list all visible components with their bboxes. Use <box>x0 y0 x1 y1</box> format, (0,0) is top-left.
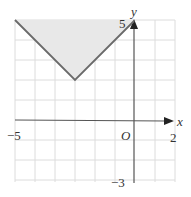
x-min-label: −5 <box>7 128 21 143</box>
origin-label: O <box>121 128 131 143</box>
shaded-region <box>15 20 135 80</box>
y-max-label: 5 <box>119 16 126 31</box>
graph: y 5 x −5 O 2 −3 <box>0 0 191 197</box>
y-min-label: −3 <box>111 175 125 190</box>
x-axis <box>15 120 166 121</box>
x-axis-arrow-icon <box>164 117 174 125</box>
y-axis-label: y <box>129 4 137 19</box>
x-max-label: 2 <box>170 130 177 145</box>
x-axis-label: x <box>176 114 183 129</box>
